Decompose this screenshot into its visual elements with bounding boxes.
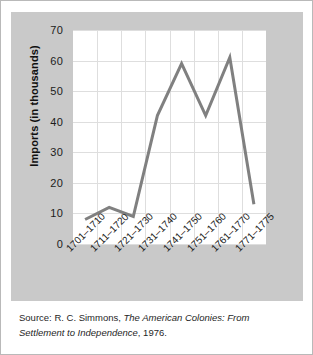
x-axis-ticks: 1701–17101711–17201721–17301731–17401741… — [73, 246, 266, 301]
chart-panel: Imports (in thousands) 010203040506070 1… — [11, 12, 303, 301]
y-tick-label: 70 — [50, 24, 63, 36]
figure-container: Imports (in thousands) 010203040506070 1… — [0, 0, 313, 355]
y-tick-label: 0 — [57, 238, 63, 250]
y-tick-label: 40 — [50, 116, 63, 128]
y-tick-label: 50 — [50, 85, 63, 97]
y-tick-label: 20 — [50, 177, 63, 189]
y-tick-label: 60 — [50, 55, 63, 67]
y-tick-label: 30 — [50, 146, 63, 158]
y-axis-ticks: 010203040506070 — [11, 30, 69, 244]
y-tick-label: 10 — [50, 207, 63, 219]
source-citation: Source: R. C. Simmons, The American Colo… — [19, 310, 293, 340]
source-footer: Source: R. C. Simmons, The American Colo… — [11, 301, 303, 345]
source-prefix: Source: R. C. Simmons, — [19, 312, 124, 323]
series-polyline — [85, 58, 254, 220]
source-suffix: , 1976. — [138, 327, 167, 338]
